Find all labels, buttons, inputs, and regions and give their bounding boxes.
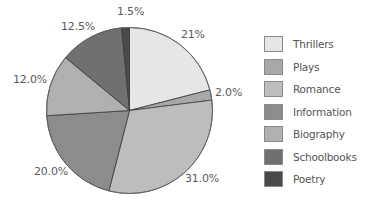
legend-swatch (264, 81, 283, 97)
legend-swatch (264, 59, 283, 75)
legend-swatch (264, 104, 283, 120)
legend: Thrillers Plays Romance Information Biog… (264, 33, 364, 191)
pie-chart: 21% 2.0% 31.0% 20.0% 12.0% 12.5% 1.5% Th… (0, 0, 365, 210)
legend-label: Information (293, 106, 352, 118)
legend-swatch (264, 36, 283, 52)
legend-swatch (264, 126, 283, 142)
slice-label-information: 20.0% (34, 165, 68, 178)
legend-swatch (264, 171, 283, 187)
slice-label-thrillers: 21% (181, 28, 205, 41)
slice-label-romance: 31.0% (185, 172, 219, 185)
legend-swatch (264, 149, 283, 165)
legend-label: Poetry (293, 173, 325, 185)
slice-label-schoolbooks: 12.5% (61, 20, 95, 33)
legend-item-plays: Plays (264, 56, 364, 79)
legend-item-schoolbooks: Schoolbooks (264, 146, 364, 169)
legend-item-poetry: Poetry (264, 168, 364, 191)
legend-label: Romance (293, 83, 340, 95)
slice-label-biography: 12.0% (13, 73, 47, 86)
legend-item-biography: Biography (264, 123, 364, 146)
slice-label-poetry: 1.5% (117, 5, 144, 18)
slice-label-plays: 2.0% (215, 86, 242, 99)
legend-item-information: Information (264, 101, 364, 124)
legend-item-thrillers: Thrillers (264, 33, 364, 56)
legend-label: Schoolbooks (293, 151, 357, 163)
legend-label: Biography (293, 128, 345, 140)
legend-label: Plays (293, 61, 319, 73)
legend-item-romance: Romance (264, 78, 364, 101)
legend-label: Thrillers (293, 38, 334, 50)
